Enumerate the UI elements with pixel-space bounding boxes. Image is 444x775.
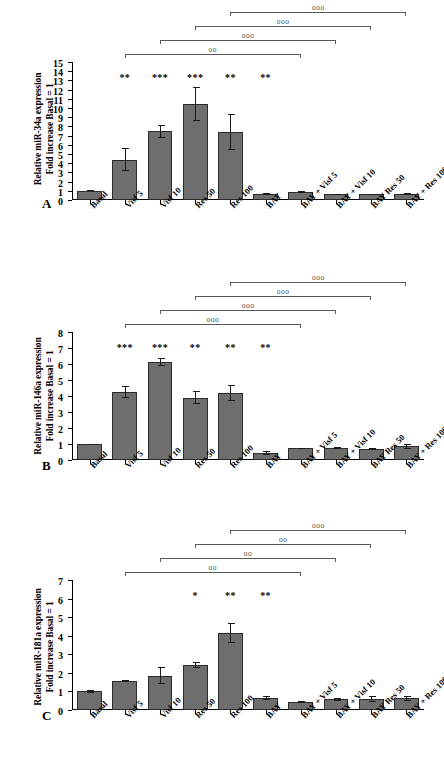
error-bar [160, 667, 161, 684]
x-axis-category-label: BAY + Visf 5 [299, 713, 306, 720]
comparison-bracket [230, 12, 406, 16]
panel-c: Relative miR-181a expression Fold increa… [0, 516, 444, 775]
x-axis-category-label: BAY + Visf 10 [334, 203, 341, 210]
bar[interactable] [218, 393, 243, 460]
panel-b-y-tick-label: 8 [58, 328, 63, 339]
error-bar [90, 690, 91, 693]
comparison-bracket-label: oo [209, 45, 218, 54]
comparison-bracket-label: ooo [312, 3, 325, 12]
panel-b-y-tick: 4 [68, 396, 72, 397]
significance-stars: ** [260, 590, 271, 601]
bar[interactable] [148, 131, 173, 200]
error-bar [406, 444, 407, 449]
significance-stars: ** [225, 342, 236, 353]
error-bar [195, 391, 196, 404]
panel-c-y-tick-label: 6 [58, 594, 63, 605]
panel-a-y-tick: 11 [68, 99, 72, 100]
panel-a: Relative miR-34a expression Fold increas… [0, 0, 444, 258]
x-axis-category-label: Visf 10 [158, 713, 165, 720]
panel-a-y-axis-title-line1: Relative miR-34a expression [33, 73, 43, 186]
panel-b-y-tick-label: 3 [58, 408, 63, 419]
comparison-bracket-label: ooo [312, 521, 325, 530]
error-bar [301, 448, 302, 450]
x-axis-category-label: Res 50 [193, 463, 200, 470]
x-axis-category-label: Visf 5 [123, 713, 130, 720]
panel-c-y-tick: 1 [68, 691, 72, 692]
panel-b-y-tick-label: 5 [58, 376, 63, 387]
panel-a-y-tick: 0 [68, 200, 72, 201]
panel-b-y-tick-label: 6 [58, 360, 63, 371]
error-bar [336, 447, 337, 449]
comparison-bracket-label: ooo [277, 287, 290, 296]
error-bar [336, 698, 337, 700]
panel-b-y-tick: 3 [68, 412, 72, 413]
comparison-bracket [195, 544, 371, 548]
panel-b-y-tick-label: 1 [58, 440, 63, 451]
error-bar [301, 191, 302, 193]
error-bar [230, 114, 231, 151]
panel-a-y-tick: 8 [68, 126, 72, 127]
comparison-bracket [195, 26, 371, 30]
bar[interactable] [112, 392, 137, 460]
panel-b-y-tick-label: 4 [58, 392, 63, 403]
significance-stars: * [192, 590, 197, 601]
error-bar [371, 448, 372, 450]
error-bar [371, 696, 372, 702]
panel-a-y-tick: 13 [68, 80, 72, 81]
panel-a-y-tick: 15 [68, 62, 72, 63]
comparison-bracket-label: oo [279, 535, 288, 544]
panel-a-y-tick-label: 15 [53, 58, 63, 69]
significance-stars: ** [225, 590, 236, 601]
error-bar [266, 451, 267, 455]
error-bar [266, 193, 267, 195]
panel-a-letter: A [42, 196, 51, 212]
error-bar [301, 701, 302, 703]
panel-c-y-tick-label: 4 [58, 631, 63, 642]
error-bar [160, 125, 161, 139]
panel-b-y-tick-label: 7 [58, 344, 63, 355]
x-axis-category-label: Visf 10 [158, 463, 165, 470]
comparison-bracket [195, 296, 371, 300]
x-axis-category-label: Visf 10 [158, 203, 165, 210]
x-axis-category-label: BAY [264, 203, 271, 210]
bar[interactable] [148, 362, 173, 460]
error-bar [230, 623, 231, 642]
panel-c-y-tick-label: 5 [58, 613, 63, 624]
bar[interactable] [218, 633, 243, 710]
panel-b-y-tick: 0 [68, 460, 72, 461]
x-axis-category-label: BAY Res 50 [369, 713, 376, 720]
error-bar [266, 696, 267, 700]
panel-a-y-axis [72, 62, 73, 200]
error-bar [160, 358, 161, 366]
panel-c-y-tick-label: 0 [58, 706, 63, 717]
panel-b-y-axis-title-line1: Relative miR-146a expression [33, 337, 43, 454]
panel-c-y-tick-label: 7 [58, 576, 63, 587]
x-axis-category-label: BAY [264, 463, 271, 470]
error-bar [336, 194, 337, 195]
x-axis-category-label: BAY + Visf 5 [299, 463, 306, 470]
error-bar [406, 193, 407, 194]
panel-c-y-axis-title-line1: Relative miR-181a expression [33, 588, 43, 705]
significance-stars: *** [117, 342, 133, 353]
panel-b-y-tick: 7 [68, 348, 72, 349]
x-axis-category-label: Basal [88, 203, 95, 210]
x-axis-category-label: Visf 5 [123, 463, 130, 470]
panel-a-y-tick: 2 [68, 182, 72, 183]
panel-c-y-tick-label: 1 [58, 687, 63, 698]
comparison-bracket-label: ooo [277, 17, 290, 26]
panel-c-y-tick: 7 [68, 580, 72, 581]
x-axis-category-label: Basal [88, 713, 95, 720]
panel-a-y-tick: 4 [68, 163, 72, 164]
comparison-bracket [125, 572, 301, 576]
panel-a-y-tick: 6 [68, 145, 72, 146]
panel-a-y-tick: 1 [68, 191, 72, 192]
error-bar [125, 680, 126, 682]
comparison-bracket [125, 54, 301, 58]
panel-a-y-tick: 3 [68, 172, 72, 173]
panel-b-y-tick: 8 [68, 332, 72, 333]
panel-b-letter: B [42, 458, 51, 474]
panel-c-y-tick-label: 2 [58, 668, 63, 679]
comparison-bracket-label: ooo [312, 273, 325, 282]
panel-a-y-tick: 7 [68, 136, 72, 137]
x-axis-category-label: BAY Res 50 [369, 203, 376, 210]
